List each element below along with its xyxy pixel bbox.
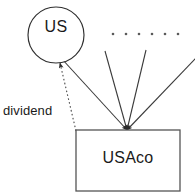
node-usaco-rect [76, 130, 180, 191]
diagram-canvas: US USAco dividend [0, 0, 195, 196]
edge-ownership-right [127, 58, 195, 130]
edge-ownership-mid-right [127, 50, 146, 130]
shareholders-ellipsis-icon [112, 33, 180, 36]
node-us-circle [28, 7, 84, 63]
diagram-graphics [0, 0, 195, 196]
edge-dividend [60, 63, 76, 131]
